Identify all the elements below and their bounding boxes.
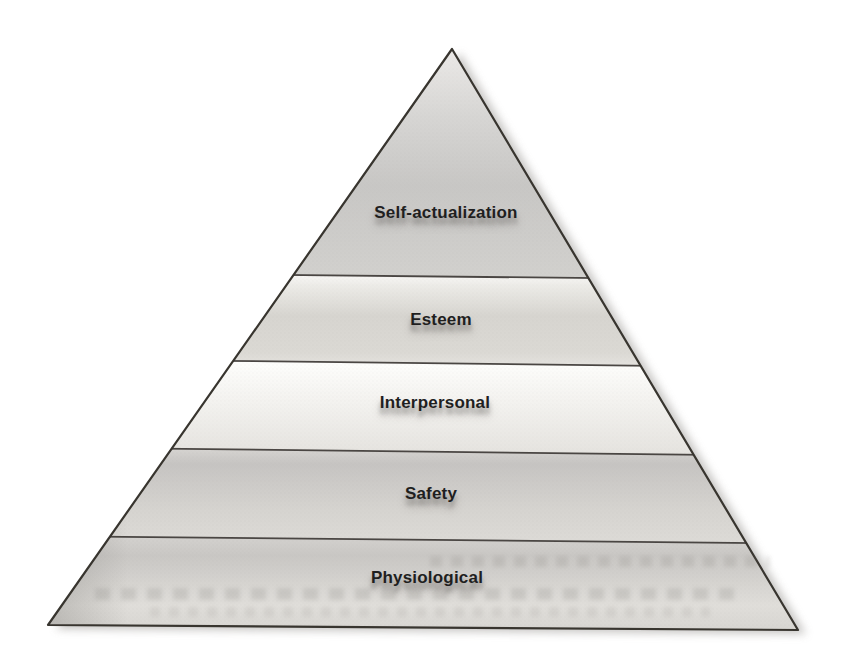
pyramid-level-label-physiological: Physiological [237, 566, 617, 590]
pyramid-level-label-self-actualization: Self-actualization [256, 201, 636, 225]
pyramid-level-label-safety: Safety [241, 482, 621, 506]
pyramid-level-label-esteem: Esteem [251, 308, 631, 332]
scanned-page: Self-actualization Esteem Interpersonal … [0, 0, 841, 667]
pyramid-level-label-interpersonal: Interpersonal [245, 391, 625, 415]
